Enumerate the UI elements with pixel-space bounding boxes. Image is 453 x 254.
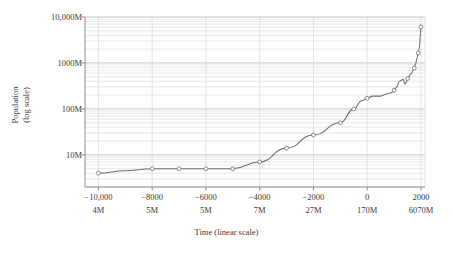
x-tick-label-population: 5M xyxy=(200,205,212,215)
data-point-marker xyxy=(312,133,316,137)
x-tick-label-population: 170M xyxy=(357,205,377,215)
x-tick-label-year: 0 xyxy=(365,192,369,202)
x-tick-label-year: −8000 xyxy=(141,192,163,202)
x-tick-label-year: −10,000 xyxy=(84,192,112,202)
data-point-marker xyxy=(150,167,154,171)
x-tick-label-population: 4M xyxy=(93,205,105,215)
x-axis-title: Time (linear scale) xyxy=(0,227,453,237)
data-point-marker xyxy=(338,121,342,125)
data-point-marker xyxy=(406,77,410,81)
data-point-marker xyxy=(204,167,208,171)
data-point-marker xyxy=(352,107,356,111)
data-point-marker xyxy=(258,160,262,164)
data-point-marker xyxy=(392,88,396,92)
data-point-marker xyxy=(231,167,235,171)
y-axis-title: Population (log scale) xyxy=(10,50,36,160)
data-point-marker xyxy=(285,146,289,150)
data-point-marker xyxy=(97,171,101,175)
x-tick-label-year: −2000 xyxy=(303,192,325,202)
x-tick-label-population: 7M xyxy=(254,205,266,215)
x-tick-label-year: −6000 xyxy=(195,192,217,202)
population-chart-figure: 10,000M1000M100M10M Population (log scal… xyxy=(0,0,453,254)
y-tick-label: 100M xyxy=(62,104,82,114)
y-axis-title-line1: Population xyxy=(10,50,21,160)
x-tick-label-population: 27M xyxy=(305,205,321,215)
x-tick-label-year: −4000 xyxy=(249,192,271,202)
y-axis-title-line2: (log scale) xyxy=(21,50,32,160)
data-point-marker xyxy=(416,51,420,55)
x-tick-label-population: 6070M xyxy=(409,205,434,215)
data-point-marker xyxy=(412,66,416,70)
data-point-marker xyxy=(365,96,369,100)
x-tick-label-year: 2000 xyxy=(412,192,429,202)
y-tick-label: 10,000M xyxy=(51,12,82,22)
y-tick-label: 10M xyxy=(66,150,82,160)
y-tick-label: 1000M xyxy=(57,58,82,68)
data-point-marker xyxy=(419,25,423,29)
data-point-marker xyxy=(177,167,181,171)
x-tick-label-population: 5M xyxy=(146,205,158,215)
